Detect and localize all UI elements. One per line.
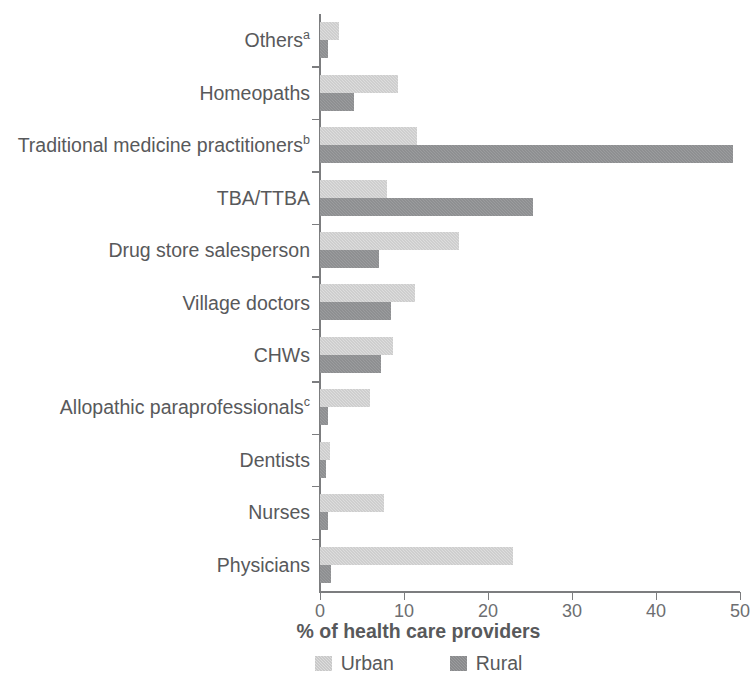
- x-axis-tick: [488, 592, 489, 600]
- y-axis-category-label: Homeopaths: [199, 81, 310, 104]
- chart-category-row: [0, 14, 747, 66]
- bar-urban: [320, 442, 330, 460]
- chart-category-row: [0, 434, 747, 486]
- legend-item-urban: Urban: [315, 652, 394, 675]
- category-footnote-marker: b: [303, 133, 310, 147]
- y-axis-tick: [312, 276, 320, 277]
- bar-rural: [320, 250, 379, 268]
- bar-rural: [320, 407, 328, 425]
- chart-category-row: [0, 276, 747, 328]
- legend-label: Rural: [476, 652, 523, 675]
- bar-rural: [320, 565, 331, 583]
- y-axis-tick: [312, 381, 320, 382]
- x-axis-tick: [572, 592, 573, 600]
- bar-urban: [320, 232, 459, 250]
- y-axis-tick: [312, 119, 320, 120]
- y-axis-category-label: CHWs: [254, 343, 310, 366]
- y-axis-category-label: Nurses: [248, 501, 310, 524]
- bar-rural: [320, 302, 391, 320]
- x-axis-tick-label: 30: [542, 601, 602, 622]
- chart-category-row: [0, 66, 747, 118]
- bar-rural: [320, 145, 733, 163]
- y-axis-category-label: Village doctors: [182, 291, 310, 314]
- x-axis-tick-label: 0: [290, 601, 350, 622]
- bar-rural: [320, 40, 328, 58]
- x-axis-tick-label: 40: [626, 601, 686, 622]
- bar-urban: [320, 127, 417, 145]
- x-axis-tick-label: 50: [710, 601, 754, 622]
- y-axis-tick: [312, 539, 320, 540]
- y-axis-tick: [312, 329, 320, 330]
- chart-category-row: [0, 329, 747, 381]
- chart-category-row: [0, 486, 747, 538]
- x-axis-tick-label: 10: [374, 601, 434, 622]
- bar-urban: [320, 547, 513, 565]
- bar-urban: [320, 22, 339, 40]
- x-axis-line: [319, 591, 740, 593]
- x-axis-tick: [740, 592, 741, 600]
- category-footnote-marker: a: [303, 28, 310, 42]
- chart-category-row: [0, 171, 747, 223]
- x-axis-tick: [320, 592, 321, 600]
- y-axis-category-label: TBA/TTBA: [217, 186, 310, 209]
- y-axis-tick: [312, 224, 320, 225]
- chart-category-row: [0, 539, 747, 591]
- y-axis-category-label: Physicians: [217, 553, 310, 576]
- chart-legend: UrbanRural: [0, 652, 747, 675]
- y-axis-category-label: Dentists: [240, 448, 310, 471]
- x-axis-title: % of health care providers: [0, 620, 747, 643]
- legend-item-rural: Rural: [450, 652, 523, 675]
- y-axis-tick: [312, 434, 320, 435]
- bar-rural: [320, 355, 381, 373]
- bar-rural: [320, 93, 354, 111]
- bar-rural: [320, 512, 328, 530]
- bar-urban: [320, 75, 398, 93]
- bar-urban: [320, 180, 387, 198]
- bar-urban: [320, 337, 393, 355]
- y-axis-tick: [312, 486, 320, 487]
- category-footnote-marker: c: [304, 395, 310, 409]
- bar-urban: [320, 494, 384, 512]
- bar-rural: [320, 198, 533, 216]
- bar-urban: [320, 284, 415, 302]
- y-axis-tick: [312, 66, 320, 67]
- y-axis-category-label: Drug store salesperson: [108, 239, 310, 262]
- x-axis-tick: [656, 592, 657, 600]
- x-axis-tick: [404, 592, 405, 600]
- bar-urban: [320, 389, 370, 407]
- y-axis-tick: [312, 171, 320, 172]
- legend-label: Urban: [341, 652, 394, 675]
- y-axis-category-label: Traditional medicine practitionersb: [18, 134, 310, 157]
- bar-rural: [320, 460, 326, 478]
- legend-swatch-icon: [315, 656, 332, 671]
- x-axis-tick-label: 20: [458, 601, 518, 622]
- y-axis-category-label: Allopathic paraprofessionalsc: [60, 396, 310, 419]
- legend-swatch-icon: [450, 656, 467, 671]
- y-axis-category-label: Othersa: [245, 29, 310, 52]
